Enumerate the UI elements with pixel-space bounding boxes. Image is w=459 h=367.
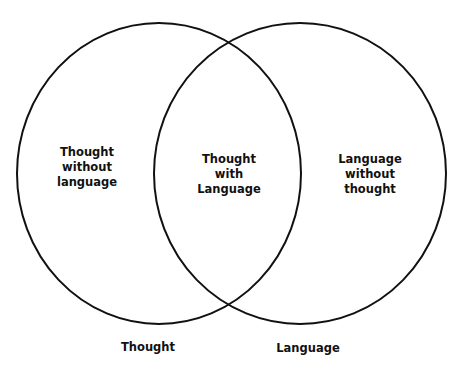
venn-diagram: Thought without language Thought with La… xyxy=(0,0,459,367)
region-line: without xyxy=(57,160,117,175)
region-line: Thought xyxy=(197,152,261,167)
region-language-without-thought: Language without thought xyxy=(338,152,402,197)
region-line: Language xyxy=(338,152,402,167)
region-thought-with-language: Thought with Language xyxy=(197,152,261,197)
set-label-thought: Thought xyxy=(121,340,175,355)
region-line: Thought xyxy=(57,145,117,160)
region-line: Language xyxy=(197,182,261,197)
region-line: without xyxy=(338,167,402,182)
region-line: language xyxy=(57,175,117,190)
region-thought-without-language: Thought without language xyxy=(57,145,117,190)
set-label-language: Language xyxy=(276,341,340,356)
region-line: with xyxy=(197,167,261,182)
region-line: thought xyxy=(338,182,402,197)
